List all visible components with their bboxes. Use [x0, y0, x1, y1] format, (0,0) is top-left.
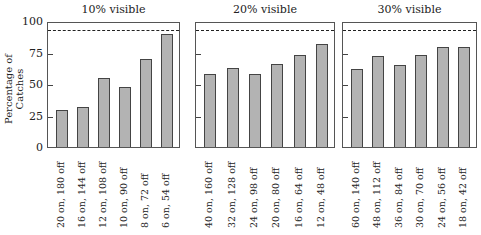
x-tick-label: 30 on, 70 off [414, 153, 425, 228]
x-tick-label: 6 on, 54 off [160, 153, 171, 228]
x-tick-label: 24 on, 56 off [436, 153, 447, 228]
bar [351, 69, 363, 147]
bar [140, 59, 152, 147]
bar [415, 55, 427, 147]
y-tick-mark [343, 85, 348, 86]
y-tick-mark [48, 117, 53, 118]
bar [458, 47, 470, 147]
x-tick-label: 12 on, 108 off [97, 153, 108, 228]
x-tick-label: 24 on, 98 off [248, 153, 259, 228]
bar [294, 55, 306, 147]
panel-1 [47, 22, 180, 148]
y-tick-mark [196, 85, 201, 86]
x-tick-label: 12 on, 48 off [315, 153, 326, 228]
bar [249, 74, 261, 147]
y-tick-label: 25 [13, 110, 43, 123]
panel-title: 10% visible [47, 3, 180, 16]
bar [56, 110, 68, 147]
bar [161, 34, 173, 147]
bar [77, 107, 89, 147]
bar [119, 87, 131, 147]
y-tick-label: 75 [13, 47, 43, 60]
y-tick-label: 50 [13, 78, 43, 91]
x-tick-label: 18 on, 42 off [457, 153, 468, 228]
x-tick-label: 40 on, 160 off [203, 153, 214, 228]
x-tick-label: 32 on, 128 off [226, 153, 237, 228]
panel-2 [195, 22, 335, 148]
bar [394, 65, 406, 147]
x-tick-label: 20 on, 80 off [270, 153, 281, 228]
bar [271, 64, 283, 147]
panel-title: 20% visible [195, 3, 335, 16]
reference-dashed-line [48, 30, 179, 31]
x-tick-label: 8 on, 72 off [139, 153, 150, 228]
panel-title: 30% visible [342, 3, 477, 16]
reference-dashed-line [196, 30, 334, 31]
y-tick-mark [343, 117, 348, 118]
bar [227, 68, 239, 147]
y-tick-mark [48, 85, 53, 86]
x-tick-label: 16 on, 144 off [76, 153, 87, 228]
x-tick-label: 10 on, 90 off [118, 153, 129, 228]
bar [98, 78, 110, 147]
bar [372, 56, 384, 147]
y-tick-label: 100 [13, 15, 43, 28]
y-tick-label: 0 [13, 141, 43, 154]
x-tick-label: 16 on, 64 off [293, 153, 304, 228]
y-tick-mark [48, 54, 53, 55]
x-tick-label: 48 on, 112 off [371, 153, 382, 228]
y-tick-mark [196, 117, 201, 118]
x-tick-label: 60 on, 140 off [350, 153, 361, 228]
x-tick-label: 20 on, 180 off [55, 153, 66, 228]
panel-3 [342, 22, 477, 148]
x-tick-label: 36 on, 84 off [393, 153, 404, 228]
y-tick-mark [343, 54, 348, 55]
y-tick-mark [196, 54, 201, 55]
bar [204, 74, 216, 147]
bar [437, 47, 449, 147]
reference-dashed-line [343, 30, 476, 31]
bar [316, 44, 328, 147]
